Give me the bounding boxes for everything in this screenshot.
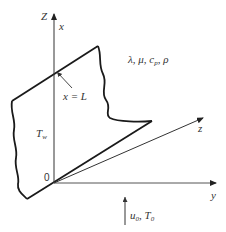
x-equals-L-label: x = L [62,90,87,102]
wall-temperature-label: Tw [36,127,47,141]
axis-label-x: x [58,20,64,32]
plate-left-wavy-edge [12,101,27,199]
z-axis [54,118,203,183]
inlet-conditions-label: u0, T0 [130,209,155,223]
properties-main: λ, μ, c [127,53,154,65]
plate-diagram: Z x x = L Tw 0 λ, μ, cp, ρ z y u0, T0 [0,0,226,232]
axis-label-z: z [197,122,203,134]
x-equals-L-pointer [57,72,72,88]
properties-rho: , ρ [158,53,169,65]
plate [12,46,152,199]
axis-label-y: y [210,189,216,201]
wall-temperature-sub: w [42,133,47,141]
inlet-T-sub: 0 [151,215,155,223]
axis-label-Z: Z [41,10,48,22]
properties-label: λ, μ, cp, ρ [127,53,168,67]
origin-label: 0 [44,172,50,183]
